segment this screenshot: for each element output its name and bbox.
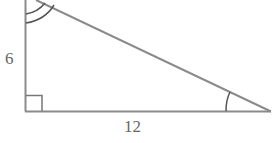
horizontal-leg-label: 12: [124, 117, 141, 136]
bottom-right-angle-arc: [226, 92, 230, 111]
triangle-diagram: 6 12: [0, 0, 278, 143]
right-angle-marker: [26, 96, 42, 112]
hypotenuse: [36, 0, 271, 112]
vertical-leg-label: 6: [5, 49, 14, 68]
top-angle-arc-inner: [26, 3, 45, 14]
